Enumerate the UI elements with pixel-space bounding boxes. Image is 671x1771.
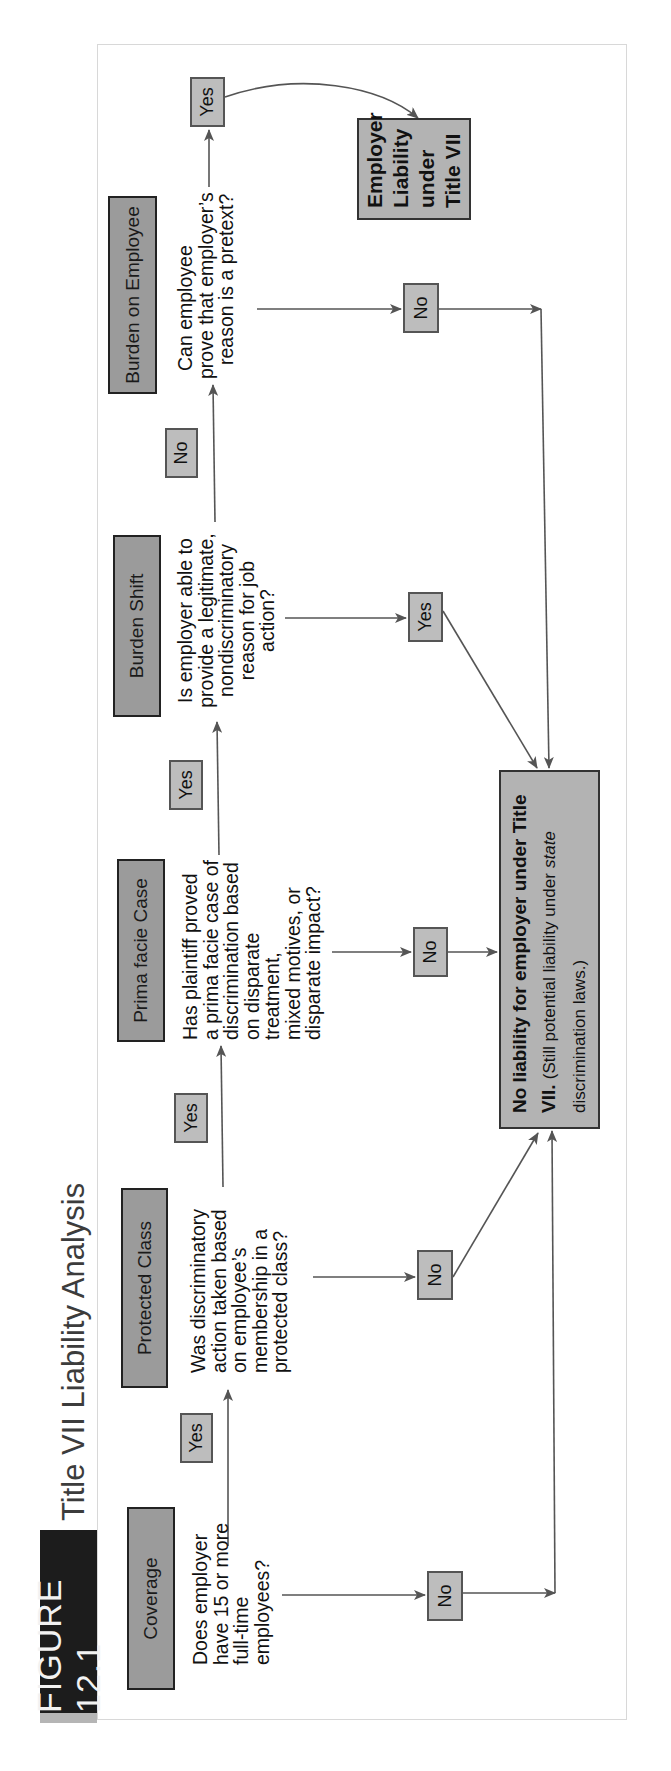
question-line: Does employer	[190, 1490, 211, 1665]
result-no-liability-note-prefix: (Still potential liability under	[540, 873, 559, 1079]
result-line: Employer	[362, 130, 388, 208]
question-line: reason is a pretext?	[216, 184, 237, 379]
result-employer-liability: Employer Liability under Title VII	[357, 118, 471, 220]
answer-burden-employee-no: No	[403, 283, 439, 333]
answer-prima-yes: Yes	[169, 760, 203, 810]
result-no-liability-note-italic: state	[540, 831, 559, 868]
question-line: on employee’s	[229, 1188, 250, 1373]
result-no-liability: No liability for employer under Title VI…	[499, 770, 600, 1129]
step-header-protected-class: Protected Class	[121, 1188, 168, 1388]
result-line: under	[414, 130, 440, 208]
answer-prima-no: No	[413, 927, 448, 977]
step-header-burden-shift: Burden Shift	[113, 535, 161, 717]
step-header-burden-on-employee: Burden on Employee	[108, 196, 157, 394]
question-protected-class: Was discriminatory action taken based on…	[188, 1188, 291, 1373]
question-line: action taken based	[209, 1188, 230, 1373]
result-line: Liability	[388, 130, 414, 208]
question-line: Can employee	[175, 184, 196, 379]
question-line: prove that employer’s	[196, 184, 217, 379]
answer-coverage-yes: Yes	[180, 1413, 213, 1463]
question-burden-on-employee: Can employee prove that employer’s reaso…	[175, 184, 237, 379]
question-prima-facie: Has plaintiff proved a prima facie case …	[180, 850, 324, 1040]
answer-burden-shift-no: No	[165, 428, 198, 478]
question-burden-shift: Is employer able to provide a legitimate…	[175, 528, 278, 713]
question-line: a prima facie case of	[201, 850, 222, 1040]
answer-burden-shift-yes: Yes	[408, 592, 443, 642]
result-no-liability-text: No liability for employer under Title VI…	[505, 786, 594, 1113]
step-header-coverage: Coverage	[127, 1507, 175, 1690]
result-line: Title VII	[440, 130, 466, 208]
flowchart-stage: FIGURE 12.1 Title VII Liability Analysis	[0, 0, 671, 1771]
question-line: membership in a	[250, 1188, 271, 1373]
answer-protected-yes: Yes	[174, 1093, 208, 1143]
question-line: have 15 or more	[211, 1490, 232, 1665]
question-line: discrimination based	[221, 850, 242, 1040]
question-line: reason for job action?	[237, 528, 278, 713]
question-line: full-time employees?	[231, 1490, 272, 1665]
question-line: provide a legitimate,	[196, 528, 217, 713]
question-line: Was discriminatory	[188, 1188, 209, 1373]
step-header-prima-facie: Prima facie Case	[117, 859, 165, 1042]
answer-burden-employee-yes: Yes	[190, 77, 225, 127]
question-line: mixed motives, or	[283, 850, 304, 1040]
question-line: Has plaintiff proved	[180, 850, 201, 1040]
question-line: Is employer able to	[175, 528, 196, 713]
question-line: protected class?	[270, 1188, 291, 1373]
question-line: disparate impact?	[303, 850, 324, 1040]
question-coverage: Does employer have 15 or more full-time …	[190, 1490, 272, 1665]
question-line: on disparate treatment,	[242, 850, 283, 1040]
answer-protected-no: No	[417, 1250, 453, 1300]
answer-coverage-no: No	[427, 1571, 463, 1621]
result-no-liability-note-suffix: discrimination laws.)	[570, 960, 589, 1113]
question-line: nondiscriminatory	[216, 528, 237, 713]
